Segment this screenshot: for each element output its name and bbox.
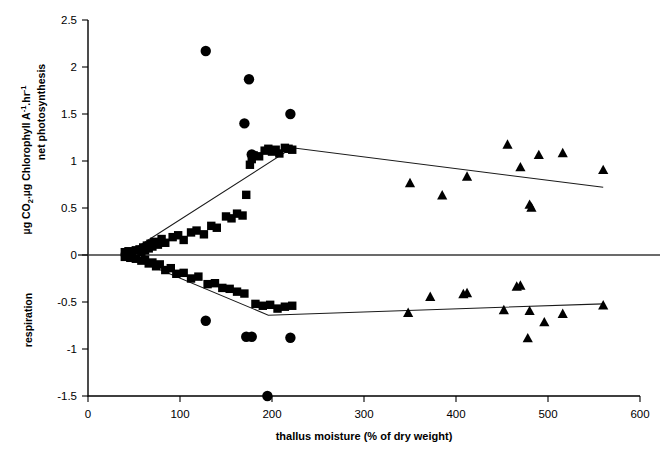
data-point-circle xyxy=(247,332,257,342)
x-tick-label: 200 xyxy=(262,408,281,420)
scatter-plot-figure: -1.5-1-0.500.511.522.5010020030040050060… xyxy=(0,0,664,454)
data-point-square xyxy=(211,279,219,287)
y-axis-label-respiration: respiration xyxy=(22,293,34,347)
data-point-circle xyxy=(247,149,257,159)
data-point-square xyxy=(233,287,241,295)
plot-background xyxy=(0,0,664,454)
data-point-square xyxy=(179,269,187,277)
data-point-square xyxy=(266,301,274,309)
y-tick-label: -0.5 xyxy=(57,296,77,308)
data-point-square xyxy=(240,289,248,297)
data-point-circle xyxy=(262,391,272,401)
y-tick-label: 0 xyxy=(71,249,77,261)
data-point-square xyxy=(259,302,267,310)
data-point-square xyxy=(273,304,281,312)
x-tick-label: 0 xyxy=(85,408,91,420)
data-point-square xyxy=(251,300,259,308)
data-point-square xyxy=(179,236,187,244)
y-tick-label: 1 xyxy=(71,155,77,167)
data-point-square xyxy=(187,274,195,282)
y-tick-label: 2 xyxy=(71,61,77,73)
data-point-circle xyxy=(285,109,295,119)
x-tick-label: 500 xyxy=(538,408,557,420)
y-tick-label: 2.5 xyxy=(61,14,77,26)
data-point-square xyxy=(213,224,221,232)
data-point-circle xyxy=(239,118,249,128)
data-point-square xyxy=(200,230,208,238)
plot-canvas: -1.5-1-0.500.511.522.5010020030040050060… xyxy=(0,0,664,454)
y-tick-label: 0.5 xyxy=(61,202,77,214)
data-point-square xyxy=(288,302,296,310)
data-point-square xyxy=(288,146,296,154)
y-axis-label-net-photosynthesis: net photosynthesis xyxy=(35,64,47,160)
data-point-square xyxy=(281,303,289,311)
y-tick-label: -1.5 xyxy=(57,390,77,402)
data-point-circle xyxy=(244,74,254,84)
x-tick-label: 600 xyxy=(630,408,649,420)
data-point-circle xyxy=(201,46,211,56)
x-axis-title: thallus moisture (% of dry weight) xyxy=(276,430,453,442)
data-point-square xyxy=(218,284,226,292)
data-point-square xyxy=(194,272,202,280)
data-point-circle xyxy=(201,316,211,326)
x-tick-label: 300 xyxy=(354,408,373,420)
data-point-square xyxy=(192,226,200,234)
data-point-square xyxy=(225,285,233,293)
data-point-square xyxy=(161,239,169,247)
data-point-square xyxy=(242,191,250,199)
y-tick-label: -1 xyxy=(67,343,77,355)
x-tick-label: 100 xyxy=(170,408,189,420)
data-point-circle xyxy=(285,333,295,343)
data-point-square xyxy=(238,211,246,219)
y-tick-label: 1.5 xyxy=(61,108,77,120)
data-point-square xyxy=(172,270,180,278)
data-point-square xyxy=(203,280,211,288)
x-tick-label: 400 xyxy=(446,408,465,420)
